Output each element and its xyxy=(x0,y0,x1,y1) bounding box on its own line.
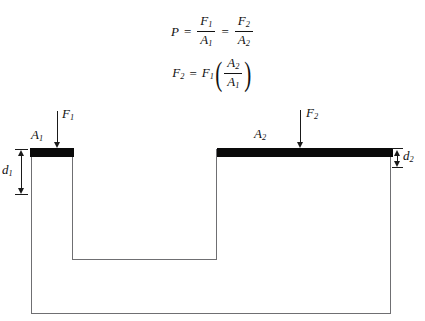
equation-1-fraction-1-denominator: A1 xyxy=(197,32,215,49)
piston-large xyxy=(217,148,393,157)
depth-large-bottom-tick xyxy=(392,167,403,168)
equation-1-fraction-2: F2 A2 xyxy=(235,14,253,49)
depth-small-bottom-tick xyxy=(15,194,28,195)
equation-2-paren-close: ) xyxy=(244,61,251,86)
depth-small-label: d1 xyxy=(2,162,13,178)
vessel-step-ledge xyxy=(72,259,217,260)
equation-1-fraction-2-denominator: A2 xyxy=(235,32,253,49)
depth-small-arrow-shaft xyxy=(21,152,22,190)
depth-large-label: d2 xyxy=(403,148,414,164)
area-small-label: A1 xyxy=(31,127,43,143)
equation-1-equals-a: = xyxy=(184,24,191,40)
equation-2-factor: F1 xyxy=(202,65,214,81)
equation-2-fraction-denominator: A1 xyxy=(224,74,242,91)
equation-2-equals: = xyxy=(189,66,196,82)
hydraulic-press-diagram: P = F1 A1 = F2 A2 F2 = F1 ( A2 A1 ) xyxy=(0,0,425,321)
vessel-left-column-inner-wall xyxy=(72,149,73,260)
force-small-arrow-shaft xyxy=(57,111,58,143)
vessel-right-wall xyxy=(390,149,391,314)
equation-1-fraction-1-numerator: F1 xyxy=(197,14,215,32)
equation-2-fraction-numerator: A2 xyxy=(224,56,242,74)
equation-2-lhs: F2 xyxy=(172,65,184,81)
depth-large-top-tick xyxy=(392,148,403,149)
vessel-left-wall xyxy=(31,149,32,314)
equation-1-fraction-2-numerator: F2 xyxy=(235,14,253,32)
force-large-label: F2 xyxy=(306,105,318,121)
equation-2-paren-open: ( xyxy=(215,61,222,86)
equation-pressure: P = F1 A1 = F2 A2 xyxy=(0,14,425,49)
force-large-arrow-head xyxy=(297,142,303,148)
equation-force: F2 = F1 ( A2 A1 ) xyxy=(0,56,425,91)
vessel-right-column-inner-wall xyxy=(216,149,217,260)
vessel-bottom xyxy=(31,313,391,314)
equation-1-fraction-1: F1 A1 xyxy=(197,14,215,49)
area-large-label: A2 xyxy=(254,126,266,142)
equation-1-lhs: P xyxy=(171,24,179,40)
piston-small xyxy=(30,148,74,157)
force-small-arrow-head xyxy=(54,142,60,148)
equation-2-fraction: A2 A1 xyxy=(224,56,242,91)
equation-1-equals-b: = xyxy=(221,24,228,40)
force-large-arrow-shaft xyxy=(300,110,301,143)
force-small-label: F1 xyxy=(62,106,74,122)
